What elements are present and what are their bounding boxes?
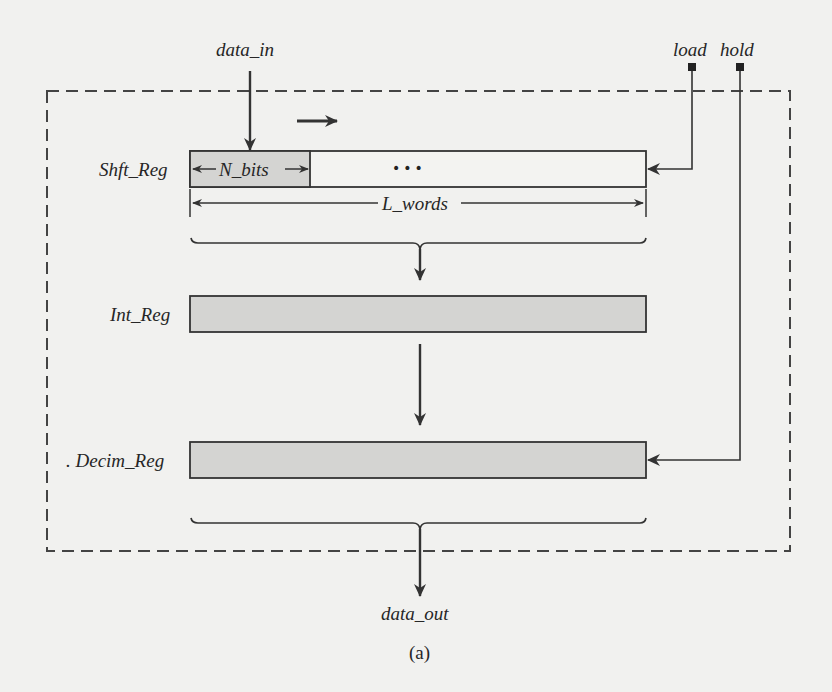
int-reg-label: Int_Reg <box>110 305 170 324</box>
ellipsis-icon: ••• <box>392 160 426 176</box>
hold-line <box>648 71 740 460</box>
decim-reg-box <box>190 442 646 478</box>
n-bits-label: N_bits <box>219 160 269 179</box>
hold-pin-icon <box>736 63 744 71</box>
data-out-label: data_out <box>381 604 449 623</box>
register-diagram <box>0 0 832 692</box>
int-reg-box <box>190 296 646 332</box>
figure-caption: (a) <box>409 643 430 662</box>
brace-bottom <box>191 518 646 529</box>
l-words-label: L_words <box>380 194 450 213</box>
load-pin-icon <box>688 63 696 71</box>
load-label: load <box>673 40 707 59</box>
load-line <box>648 71 692 169</box>
brace-top <box>191 238 646 249</box>
hold-label: hold <box>720 40 754 59</box>
decim-reg-label: . Decim_Reg <box>66 451 164 470</box>
shft-reg-label: Shft_Reg <box>99 160 168 179</box>
data-in-label: data_in <box>216 40 274 59</box>
